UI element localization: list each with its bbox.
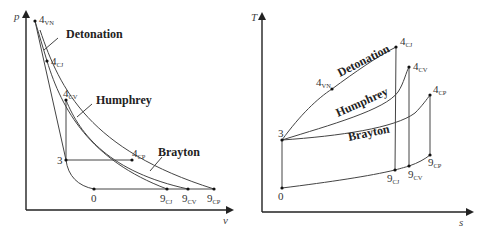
pv-y-axis-label: p xyxy=(13,10,20,22)
ts-x-axis-label: s xyxy=(459,216,463,228)
pv-x-axis-label: v xyxy=(223,214,228,226)
ts-label-9cv: 9CV xyxy=(408,168,423,181)
ts-label-3: 3 xyxy=(278,127,284,139)
pv-label-4cp: 4CP xyxy=(132,147,146,160)
pv-label-3: 3 xyxy=(57,154,63,166)
pv-point-9cp xyxy=(212,187,215,190)
pv-humphrey-leader xyxy=(77,104,92,117)
pv-label-4cv: 4CV xyxy=(63,87,78,100)
ts-label-4cj: 4CJ xyxy=(400,35,413,48)
pv-point-9cj xyxy=(165,187,168,190)
pv-label-9cv: 9CV xyxy=(182,192,197,205)
pv-point-3 xyxy=(64,158,67,161)
pv-point-4cj xyxy=(45,59,48,62)
pv-label-4vn: 4VN xyxy=(39,13,54,26)
pv-humphrey-label: Humphrey xyxy=(96,93,152,107)
ts-label-4cp: 4CP xyxy=(433,83,447,96)
ts-detonation-expansion xyxy=(395,47,396,170)
ts-y-axis-label: T xyxy=(251,11,258,23)
pv-label-9cj: 9CJ xyxy=(160,192,173,205)
pv-label-0: 0 xyxy=(91,192,97,204)
ts-point-9cj xyxy=(393,168,396,171)
ts-label-0: 0 xyxy=(278,190,284,202)
pv-point-4vn xyxy=(33,19,36,22)
ts-brayton-label: Brayton xyxy=(347,121,391,143)
pv-point-0 xyxy=(92,187,95,190)
ts-humphrey-label: Humphrey xyxy=(334,84,391,119)
ts-label-4cv: 4CV xyxy=(413,60,428,73)
ts-label-9cp: 9CP xyxy=(428,156,442,169)
pv-brayton-label: Brayton xyxy=(158,145,200,159)
ts-point-4cp xyxy=(428,93,431,96)
ts-detonation-label: Detonation xyxy=(335,41,392,79)
pv-shock-line xyxy=(35,21,66,160)
ts-label-9cj: 9CJ xyxy=(387,172,400,185)
pv-point-9cv xyxy=(186,187,189,190)
pv-label-4cj: 4CJ xyxy=(51,55,64,68)
thermodynamic-cycle-figure: p v Detonation Humphrey Brayton xyxy=(0,0,478,240)
pv-detonation-leader xyxy=(44,38,58,50)
pv-compression-curve xyxy=(66,160,94,189)
ts-diagram: T s Detonation Humphrey Brayton 3 0 4V xyxy=(251,11,472,228)
pv-detonation-rayleigh xyxy=(35,21,47,61)
ts-point-4cv xyxy=(407,65,410,68)
ts-point-4cj xyxy=(394,45,397,48)
pv-diagram: p v Detonation Humphrey Brayton xyxy=(13,10,232,226)
pv-detonation-label: Detonation xyxy=(66,27,123,41)
ts-label-4vn: 4VN xyxy=(316,76,331,89)
pv-detonation-expansion xyxy=(47,61,167,189)
pv-label-9cp: 9CP xyxy=(207,192,221,205)
